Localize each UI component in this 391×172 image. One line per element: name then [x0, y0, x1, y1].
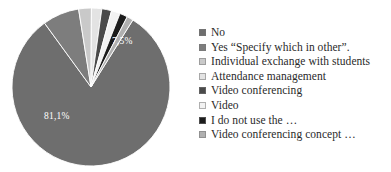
legend-item[interactable]: Individual exchange with students: [199, 54, 391, 69]
pie-svg: 81,1% 7,5%: [0, 0, 195, 172]
legend-item[interactable]: Video conferencing: [199, 83, 391, 98]
legend-item[interactable]: I do not use the …: [199, 113, 391, 128]
legend-swatch-icon: [199, 102, 206, 109]
legend-item-label: Yes “Specify which in other”.: [211, 40, 350, 55]
chart-legend: NoYes “Specify which in other”.Individua…: [199, 25, 391, 142]
legend-item[interactable]: Yes “Specify which in other”.: [199, 40, 391, 55]
legend-swatch-icon: [199, 29, 206, 36]
legend-swatch-icon: [199, 44, 206, 51]
legend-item-label: Video conferencing concept …: [211, 127, 356, 142]
legend-swatch-icon: [199, 87, 206, 94]
legend-item[interactable]: No: [199, 25, 391, 40]
legend-item[interactable]: Video conferencing concept …: [199, 127, 391, 142]
legend-item-label: I do not use the …: [211, 113, 297, 128]
legend-swatch-icon: [199, 117, 206, 124]
slice-label-81: 81,1%: [44, 111, 70, 121]
legend-swatch-icon: [199, 73, 206, 80]
legend-item[interactable]: Video: [199, 98, 391, 113]
pie-slices: [12, 8, 170, 166]
pie-plot-area: 81,1% 7,5%: [0, 0, 195, 172]
slice-label-75: 7,5%: [112, 36, 133, 46]
legend-swatch-icon: [199, 131, 206, 138]
legend-item-label: Video conferencing: [211, 83, 302, 98]
legend-item[interactable]: Attendance management: [199, 69, 391, 84]
pie-chart-figure: 81,1% 7,5% NoYes “Specify which in other…: [0, 0, 391, 172]
legend-item-label: Video: [211, 98, 239, 113]
legend-swatch-icon: [199, 58, 206, 65]
legend-item-label: No: [211, 25, 225, 40]
legend-item-label: Attendance management: [211, 69, 326, 84]
legend-item-label: Individual exchange with students: [211, 54, 370, 69]
